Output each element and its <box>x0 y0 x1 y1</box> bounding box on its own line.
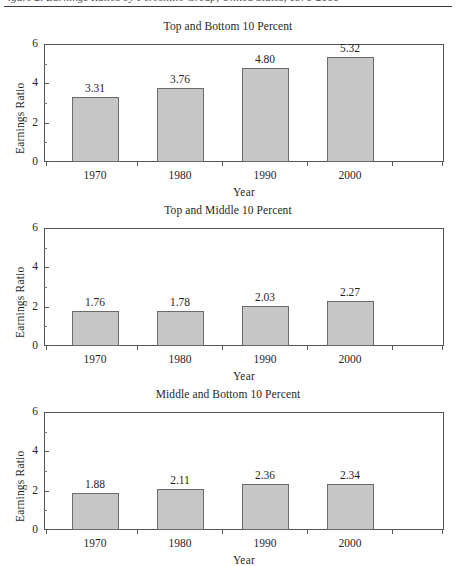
x-tick-mark <box>222 530 223 534</box>
y-tick-label: 6 <box>22 406 38 418</box>
y-tick-mark <box>44 267 49 268</box>
bar <box>72 97 119 162</box>
x-tick-label: 1970 <box>65 170 125 182</box>
x-axis-label: Year <box>44 186 444 198</box>
x-tick-label: 1990 <box>235 170 295 182</box>
y-tick-label: 4 <box>22 261 38 273</box>
x-tick-mark <box>442 162 443 166</box>
y-tick-mark <box>44 451 49 452</box>
bar-value-label: 2.03 <box>235 292 295 304</box>
y-tick-label: 0 <box>22 340 38 352</box>
x-tick-label: 1970 <box>65 354 125 366</box>
x-tick-mark <box>137 346 138 350</box>
y-tick-label: 2 <box>22 117 38 129</box>
bar <box>327 301 374 346</box>
x-tick-mark <box>46 162 47 166</box>
bar <box>157 88 204 162</box>
chart-title: Top and Bottom 10 Percent <box>0 20 456 32</box>
y-tick-label: 6 <box>22 38 38 50</box>
x-tick-mark <box>137 530 138 534</box>
y-tick-mark-minor <box>44 103 47 104</box>
y-tick-mark <box>44 83 49 84</box>
x-tick-label: 1990 <box>235 354 295 366</box>
header-rule <box>4 6 452 7</box>
y-tick-label: 4 <box>22 445 38 457</box>
x-tick-mark <box>392 346 393 350</box>
bar <box>157 311 204 346</box>
x-tick-mark <box>307 162 308 166</box>
x-tick-mark <box>46 530 47 534</box>
bar <box>327 57 374 162</box>
x-tick-label: 1970 <box>65 538 125 550</box>
y-tick-label: 0 <box>22 524 38 536</box>
bar-value-label: 1.88 <box>65 479 125 491</box>
x-tick-label: 1980 <box>150 170 210 182</box>
x-tick-label: 1990 <box>235 538 295 550</box>
x-tick-mark <box>307 530 308 534</box>
y-tick-mark-minor <box>44 248 47 249</box>
bar <box>327 484 374 530</box>
y-tick-label: 4 <box>22 77 38 89</box>
x-tick-label: 1980 <box>150 538 210 550</box>
running-header: igure 2. Earnings Ratios by Percentile G… <box>0 0 456 8</box>
y-tick-mark-minor <box>44 326 47 327</box>
chart-title: Middle and Bottom 10 Percent <box>0 388 456 400</box>
bar-value-label: 2.36 <box>235 470 295 482</box>
bar-value-label: 5.32 <box>320 43 380 55</box>
y-tick-label: 2 <box>22 485 38 497</box>
bar-value-label: 2.11 <box>150 475 210 487</box>
bar <box>242 306 289 346</box>
x-tick-mark <box>392 162 393 166</box>
x-tick-mark <box>442 530 443 534</box>
y-tick-mark-minor <box>44 471 47 472</box>
y-tick-mark-minor <box>44 64 47 65</box>
x-tick-mark <box>392 530 393 534</box>
x-tick-label: 2000 <box>320 354 380 366</box>
bar-value-label: 1.76 <box>65 297 125 309</box>
x-axis-label: Year <box>44 554 444 566</box>
y-tick-label: 2 <box>22 301 38 313</box>
x-tick-mark <box>307 346 308 350</box>
bar <box>242 68 289 162</box>
running-header-text: igure 2. Earnings Ratios by Percentile G… <box>8 0 448 3</box>
x-tick-label: 1980 <box>150 354 210 366</box>
x-tick-label: 2000 <box>320 170 380 182</box>
y-tick-mark <box>44 123 49 124</box>
chart-panel: Middle and Bottom 10 PercentEarnings Rat… <box>0 388 456 566</box>
bar-value-label: 3.31 <box>65 83 125 95</box>
chart-panel: Top and Middle 10 PercentEarnings Ratio0… <box>0 204 456 386</box>
x-tick-mark <box>222 162 223 166</box>
y-tick-label: 0 <box>22 156 38 168</box>
y-tick-mark-minor <box>44 287 47 288</box>
bar-value-label: 3.76 <box>150 74 210 86</box>
x-tick-mark <box>442 346 443 350</box>
bar-value-label: 1.78 <box>150 297 210 309</box>
y-tick-mark-minor <box>44 142 47 143</box>
x-axis-label: Year <box>44 370 444 382</box>
bar-value-label: 2.34 <box>320 470 380 482</box>
y-tick-label: 6 <box>22 222 38 234</box>
bar <box>72 493 119 530</box>
chart-title: Top and Middle 10 Percent <box>0 204 456 216</box>
x-tick-mark <box>222 346 223 350</box>
y-tick-mark-minor <box>44 432 47 433</box>
x-tick-mark <box>46 346 47 350</box>
bar <box>242 484 289 530</box>
bar-value-label: 2.27 <box>320 287 380 299</box>
bar <box>157 489 204 530</box>
y-tick-mark <box>44 491 49 492</box>
y-tick-mark-minor <box>44 510 47 511</box>
x-tick-mark <box>137 162 138 166</box>
bar-value-label: 4.80 <box>235 54 295 66</box>
x-tick-label: 2000 <box>320 538 380 550</box>
chart-panel: Top and Bottom 10 PercentEarnings Ratio0… <box>0 20 456 202</box>
y-tick-mark <box>44 307 49 308</box>
bar <box>72 311 119 346</box>
